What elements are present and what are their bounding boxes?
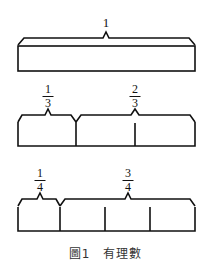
label-two-thirds: 2 3 [130, 84, 141, 109]
label-three-fourths: 3 4 [123, 168, 134, 193]
bar-fourths [18, 207, 195, 231]
label-one-third: 1 3 [43, 84, 54, 109]
denominator: 4 [37, 182, 43, 193]
label-whole: 1 [103, 16, 110, 29]
numerator: 2 [132, 84, 138, 95]
label-one-fourth: 1 4 [35, 168, 46, 193]
brace-two-thirds [76, 109, 195, 122]
bar-whole [18, 46, 195, 71]
fraction-bars-diagram [0, 0, 211, 274]
numerator: 1 [37, 168, 43, 179]
brace-whole [18, 32, 195, 45]
brace-three-fourths [60, 193, 195, 206]
numerator: 3 [125, 168, 131, 179]
brace-one-third [18, 109, 76, 122]
brace-one-fourth [18, 193, 60, 206]
denominator: 3 [132, 98, 138, 109]
denominator: 3 [45, 98, 51, 109]
bar-thirds [18, 122, 195, 146]
denominator: 4 [125, 182, 131, 193]
figure-caption: 圖1 有理數 [0, 244, 211, 261]
numerator: 1 [45, 84, 51, 95]
